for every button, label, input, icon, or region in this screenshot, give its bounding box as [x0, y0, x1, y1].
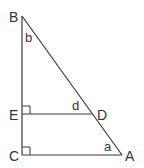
- angle-label-b: b: [25, 30, 32, 45]
- angle-label-d: d: [72, 98, 79, 113]
- vertex-label-c: C: [9, 148, 19, 164]
- right-angle-marker-c: [22, 147, 30, 155]
- vertex-label-e: E: [9, 107, 18, 123]
- vertex-label-b: B: [9, 9, 18, 25]
- angle-label-a: a: [104, 139, 112, 154]
- triangle-diagram: B E D C A b d a: [0, 0, 144, 168]
- right-angle-marker-e: [22, 106, 30, 114]
- vertex-label-a: A: [125, 148, 135, 164]
- vertex-label-d: D: [97, 107, 107, 123]
- segment-ab: [22, 16, 122, 155]
